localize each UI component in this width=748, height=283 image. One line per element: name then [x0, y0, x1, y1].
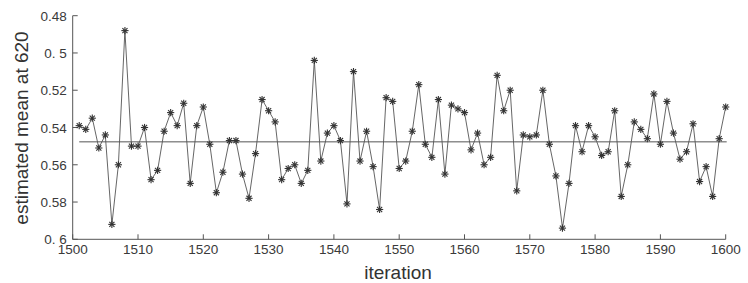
asterisk-marker [494, 72, 501, 79]
asterisk-marker [552, 172, 559, 179]
asterisk-marker [650, 90, 657, 97]
asterisk-marker [396, 165, 403, 172]
asterisk-marker [232, 137, 239, 144]
asterisk-marker [605, 148, 612, 155]
y-tick-label: 0.56 [40, 158, 66, 173]
asterisk-marker [533, 131, 540, 138]
x-tick-label: 1590 [645, 242, 675, 257]
asterisk-marker [258, 96, 265, 103]
x-tick-label: 1520 [188, 242, 218, 257]
asterisk-marker [304, 167, 311, 174]
asterisk-marker [520, 131, 527, 138]
asterisk-marker [598, 152, 605, 159]
asterisk-marker [500, 107, 507, 114]
asterisk-marker [474, 129, 481, 136]
asterisk-marker [480, 161, 487, 168]
asterisk-marker [128, 143, 135, 150]
asterisk-marker [226, 137, 233, 144]
asterisk-marker [683, 148, 690, 155]
data-line [79, 31, 726, 229]
asterisk-marker [546, 141, 553, 148]
y-tick-label: 0.48 [40, 9, 66, 24]
asterisk-marker [278, 176, 285, 183]
y-tick-label: 0.58 [40, 195, 66, 210]
x-tick-label: 1510 [123, 242, 153, 257]
asterisk-marker [76, 122, 83, 129]
x-tick-label: 1540 [319, 242, 349, 257]
asterisk-marker [369, 163, 376, 170]
asterisk-marker [272, 118, 279, 125]
asterisk-marker [696, 178, 703, 185]
asterisk-marker [298, 180, 305, 187]
asterisk-marker [350, 68, 357, 75]
asterisk-marker [337, 137, 344, 144]
asterisk-marker [611, 107, 618, 114]
asterisk-marker [676, 156, 683, 163]
asterisk-marker [526, 133, 533, 140]
asterisk-marker [193, 122, 200, 129]
asterisk-marker [402, 157, 409, 164]
asterisk-marker [219, 169, 226, 176]
x-tick-label: 1570 [515, 242, 545, 257]
chart-area: 0.480. 50.520.540.560.580. 6150015101520… [0, 0, 748, 283]
asterisk-marker [356, 157, 363, 164]
y-axis-label-text: estimated mean at 620 [11, 31, 33, 224]
x-tick-label: 1560 [449, 242, 479, 257]
asterisk-marker [154, 167, 161, 174]
asterisk-marker [578, 148, 585, 155]
x-tick-label: 1500 [58, 242, 88, 257]
asterisk-marker [467, 146, 474, 153]
asterisk-marker [383, 94, 390, 101]
asterisk-marker [147, 176, 154, 183]
asterisk-marker [121, 27, 128, 34]
asterisk-marker [716, 135, 723, 142]
asterisk-marker [317, 157, 324, 164]
asterisk-marker [461, 109, 468, 116]
asterisk-marker [330, 122, 337, 129]
asterisk-marker [670, 129, 677, 136]
asterisk-marker [559, 225, 566, 232]
asterisk-marker [376, 206, 383, 213]
asterisk-marker [637, 126, 644, 133]
y-tick-label: 0. 5 [44, 46, 67, 61]
asterisk-marker [311, 57, 318, 64]
asterisk-marker [115, 161, 122, 168]
asterisk-marker [389, 98, 396, 105]
asterisk-marker [572, 122, 579, 129]
asterisk-marker [624, 161, 631, 168]
asterisk-marker [239, 170, 246, 177]
asterisk-marker [102, 131, 109, 138]
asterisk-marker [657, 141, 664, 148]
asterisk-marker [409, 128, 416, 135]
asterisk-marker [631, 118, 638, 125]
asterisk-marker [252, 150, 259, 157]
asterisk-marker [343, 200, 350, 207]
x-tick-label: 1580 [580, 242, 610, 257]
asterisk-marker [448, 102, 455, 109]
asterisk-marker [95, 144, 102, 151]
asterisk-marker [415, 81, 422, 88]
x-tick-label: 1550 [384, 242, 414, 257]
asterisk-marker [200, 103, 207, 110]
asterisk-marker [422, 141, 429, 148]
y-tick-label: 0.54 [40, 121, 67, 136]
y-tick-label: 0.52 [40, 83, 66, 98]
y-axis-label: estimated mean at 620 [0, 0, 40, 283]
asterisk-marker [454, 105, 461, 112]
asterisk-marker [507, 87, 514, 94]
asterisk-marker [187, 180, 194, 187]
asterisk-marker [592, 133, 599, 140]
asterisk-marker [167, 109, 174, 116]
asterisk-marker [141, 124, 148, 131]
asterisk-marker [585, 122, 592, 129]
asterisk-marker [180, 100, 187, 107]
asterisk-marker [174, 122, 181, 129]
asterisk-marker [663, 98, 670, 105]
asterisk-marker [134, 143, 141, 150]
asterisk-marker [108, 221, 115, 228]
asterisk-marker [709, 193, 716, 200]
x-tick-label: 1600 [711, 242, 741, 257]
x-tick-label: 1530 [254, 242, 284, 257]
asterisk-marker [161, 128, 168, 135]
asterisk-marker [428, 154, 435, 161]
